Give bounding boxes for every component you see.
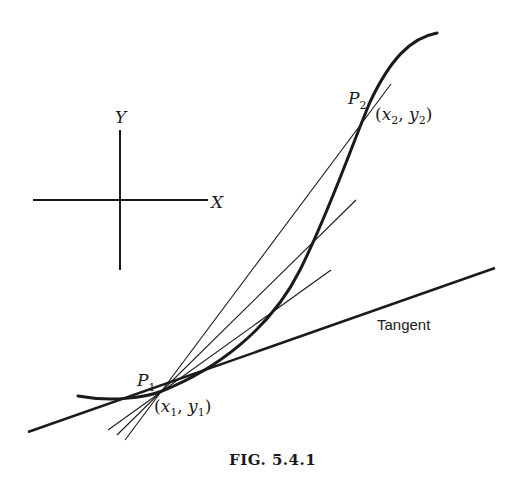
figure-caption: FIG. 5.4.1 <box>229 451 316 469</box>
secant-line-p2 <box>125 84 391 440</box>
point-p2-label: P2 (x2, y2) <box>347 88 432 127</box>
p2-name: P <box>347 88 360 108</box>
figure-canvas: Y X P2 (x2, y2) P1 (x1, y1) Tangent FIG.… <box>0 0 523 484</box>
svg-text:P2: P2 <box>347 88 366 112</box>
axes-inset: Y X <box>33 107 224 270</box>
tangent-label: Tangent <box>377 316 431 333</box>
p2-coords: (x2, y2) <box>375 104 432 127</box>
x-axis-label: X <box>209 192 224 212</box>
curve <box>78 33 437 399</box>
p1-name: P <box>136 370 149 390</box>
secant-line-2 <box>117 200 356 435</box>
p1-sub: 1 <box>148 381 155 394</box>
p2-sub: 2 <box>359 99 366 112</box>
y-axis-label: Y <box>115 107 128 127</box>
secant-line-3 <box>108 270 331 430</box>
p1-coords: (x1, y1) <box>154 396 211 419</box>
